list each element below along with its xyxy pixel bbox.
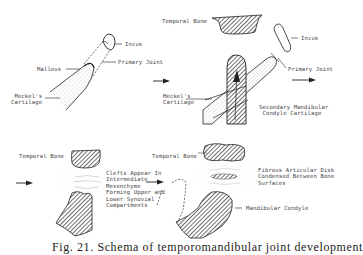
incus-shape <box>274 24 290 52</box>
label-temporal-bone-stage-4: Temporal Bone <box>152 153 197 159</box>
articular-disk-shape <box>211 174 237 179</box>
label-temporal-bone-stage-3: Temporal Bone <box>19 153 64 159</box>
label-malleus-stage-1: Malleus <box>37 66 61 72</box>
label-mandibular-condyle: Mandibular Condyle <box>246 205 308 211</box>
label-clefts: Clefts Appear In Intermediate Mesenchyme… <box>106 170 165 208</box>
arrow-stage-1-to-2 <box>153 79 170 84</box>
label-meckels-cartilage-stage-1: Meckel's Cartilage <box>11 93 42 106</box>
figure-caption: Fig. 21. Schema of temporomandibular joi… <box>52 240 363 255</box>
label-primary-joint-stage-2: Primary Joint <box>288 66 333 72</box>
temporal-bone-shape <box>212 15 262 34</box>
label-secondary-cartilage: Secondary Mandibular Condyle Cartilage <box>259 104 328 117</box>
label-primary-joint-stage-1: Primary Joint <box>118 59 163 65</box>
label-incus-stage-2: Incus <box>301 35 318 41</box>
label-articular-disk: Fibrous Articular Disk Condensed Between… <box>258 167 334 186</box>
temporal-bone-shape <box>204 144 245 161</box>
label-incus-stage-1: Incus <box>125 41 142 47</box>
incus-shape <box>103 34 115 50</box>
mandibular-condyle-shape <box>56 192 92 236</box>
label-temporal-bone-stage-2: Temporal Bone <box>162 18 207 24</box>
arrow-into-stage-3 <box>16 181 33 186</box>
temporal-bone-shape <box>72 150 101 168</box>
label-meckels-cartilage-stage-2: Meckel's Cartilage <box>163 93 194 106</box>
